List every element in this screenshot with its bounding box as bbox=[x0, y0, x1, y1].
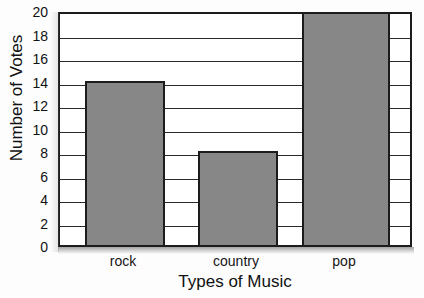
bar-rock bbox=[85, 81, 165, 246]
y-tick-label: 12 bbox=[32, 98, 48, 114]
y-tick-label: 6 bbox=[40, 169, 48, 185]
y-axis-tick-labels: 02468101214161820 bbox=[0, 0, 58, 298]
x-axis-title: Types of Music bbox=[58, 272, 412, 292]
y-tick-label: 0 bbox=[40, 239, 48, 255]
y-tick-label: 16 bbox=[32, 51, 48, 67]
x-category-label-country: country bbox=[213, 253, 259, 269]
x-category-label-rock: rock bbox=[110, 253, 136, 269]
y-tick-label: 14 bbox=[32, 75, 48, 91]
y-tick-label: 18 bbox=[32, 28, 48, 44]
y-tick-label: 4 bbox=[40, 192, 48, 208]
x-category-label-pop: pop bbox=[332, 253, 355, 269]
bar-chart-screenshot: Favorite Music Number of Votes 024681012… bbox=[0, 0, 424, 298]
y-tick-label: 2 bbox=[40, 216, 48, 232]
chart-title: Favorite Music bbox=[0, 0, 424, 5]
bar-country bbox=[198, 151, 278, 245]
y-tick-label: 20 bbox=[32, 4, 48, 20]
y-tick-label: 8 bbox=[40, 145, 48, 161]
y-tick-label: 10 bbox=[32, 122, 48, 138]
plot-area bbox=[58, 12, 412, 247]
bar-pop bbox=[302, 12, 390, 245]
